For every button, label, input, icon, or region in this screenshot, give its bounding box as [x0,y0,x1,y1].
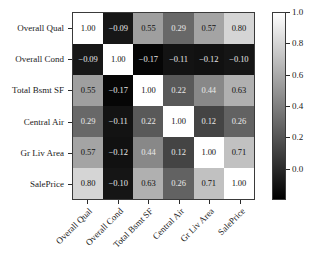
heatmap-cell: 0.80 [73,168,103,199]
correlation-heatmap-figure: Overall QualOverall CondTotal Bsmt SFCen… [0,0,313,268]
colorbar-tick-mark [286,137,290,138]
heatmap-cell: −0.17 [133,44,163,75]
y-axis-tick-mark [68,153,72,154]
heatmap-cell: 0.29 [73,106,103,137]
y-axis-tick-mark [68,28,72,29]
heatmap-cell-value: −0.17 [109,86,128,95]
heatmap-cell: 0.57 [194,13,224,44]
heatmap-cell: 1.00 [194,137,224,168]
y-axis-tick-label: Overall Cond [0,43,68,74]
y-axis-tick-label: Gr Liv Area [0,137,68,168]
heatmap-cell-value: −0.10 [109,179,128,188]
heatmap-cell: −0.09 [73,44,103,75]
y-axis-tick-label: Total Bsmt SF [0,75,68,106]
heatmap-cell-value: 1.00 [232,179,246,188]
heatmap-cell-value: 0.12 [171,148,185,157]
heatmap-cell-value: 0.57 [81,148,95,157]
heatmap-cell-value: 1.00 [202,148,216,157]
colorbar-tick-label: 0.6 [292,70,303,80]
heatmap-cell: 0.22 [163,75,193,106]
heatmap-cell-value: −0.12 [109,148,128,157]
heatmap-cell-value: −0.17 [139,55,158,64]
colorbar-tick-mark [286,106,290,107]
heatmap-cell: 0.12 [194,106,224,137]
heatmap-cell: −0.12 [194,44,224,75]
colorbar-gradient [272,12,286,200]
x-axis-tick-mark [240,200,241,204]
x-axis-tick-mark [209,200,210,204]
x-axis-tick-mark [179,200,180,204]
heatmap-cell-value: 0.29 [171,24,185,33]
x-axis-tick-mark [87,200,88,204]
heatmap-cell: 1.00 [224,168,254,199]
heatmap-cell: 1.00 [133,75,163,106]
heatmap-cell-value: 1.00 [141,86,155,95]
x-axis-tick-mark [148,200,149,204]
x-axis-tick-mark [118,200,119,204]
heatmap-cell-value: 0.55 [81,86,95,95]
heatmap-cell-value: 0.55 [141,24,155,33]
heatmap-cell: 1.00 [73,13,103,44]
heatmap-cell-value: 0.29 [81,117,95,126]
heatmap-cell-value: 1.00 [111,55,125,64]
heatmap-cell-value: −0.09 [109,24,128,33]
heatmap-cell: 0.57 [73,137,103,168]
heatmap-cell-value: −0.10 [229,55,248,64]
heatmap-cell: −0.11 [103,106,133,137]
y-axis-tick-label: Central Air [0,106,68,137]
heatmap-cell: 0.63 [224,75,254,106]
heatmap-cell-value: 0.71 [202,179,216,188]
heatmap-cell: 0.55 [73,75,103,106]
y-axis-tick-mark [68,122,72,123]
heatmap-cell: −0.17 [103,75,133,106]
x-axis-tick-label: Overall Qual [2,206,94,268]
y-axis-tick-label: SalePrice [0,169,68,200]
colorbar-tick-label: 0.8 [292,38,303,48]
heatmap-cell: 0.63 [133,168,163,199]
heatmap-cell-value: −0.11 [109,117,128,126]
colorbar-tick-label: 1.0 [292,7,303,17]
colorbar-tick-mark [286,75,290,76]
colorbar-tick-label: 0.0 [292,164,303,174]
y-axis-tick-label-group: Overall QualOverall CondTotal Bsmt SFCen… [0,12,68,200]
heatmap-cell: 0.26 [163,168,193,199]
heatmap-cell: 0.29 [163,13,193,44]
colorbar-tick-mark [286,12,290,13]
heatmap-cell-value: 0.80 [232,24,246,33]
heatmap-cell: 1.00 [163,106,193,137]
heatmap-grid: 1.00−0.090.550.290.570.80−0.091.00−0.17−… [72,12,255,200]
heatmap-cell: −0.12 [103,137,133,168]
heatmap-cell: 0.44 [133,137,163,168]
heatmap-cell: 0.26 [224,106,254,137]
heatmap-cell: 0.80 [224,13,254,44]
heatmap-cell-value: 1.00 [81,24,95,33]
heatmap-cell-value: 0.22 [171,86,185,95]
colorbar-tick-label: 0.4 [292,101,303,111]
y-axis-tick-mark [68,59,72,60]
colorbar-tick-label: 0.2 [292,132,303,142]
colorbar-tick-mark [286,169,290,170]
heatmap-cell: 0.12 [163,137,193,168]
heatmap-cell-value: 0.80 [81,179,95,188]
heatmap-cell-value: 1.00 [171,117,185,126]
heatmap-cell-value: −0.12 [199,55,218,64]
heatmap-cell-value: 0.26 [232,117,246,126]
heatmap-cell: 0.22 [133,106,163,137]
heatmap-cell: 0.71 [194,168,224,199]
heatmap-cell-value: 0.71 [232,148,246,157]
y-axis-tick-label: Overall Qual [0,12,68,43]
heatmap-cell-value: 0.44 [202,86,216,95]
colorbar-tick-mark [286,43,290,44]
heatmap-cell-value: −0.09 [78,55,97,64]
heatmap-cell: 1.00 [103,44,133,75]
heatmap-cell-value: 0.57 [202,24,216,33]
heatmap-cell-value: 0.12 [202,117,216,126]
y-axis-tick-mark [68,90,72,91]
heatmap-cell-value: 0.63 [232,86,246,95]
heatmap-cell-value: 0.44 [141,148,155,157]
heatmap-cell: 0.44 [194,75,224,106]
heatmap-cell-value: 0.63 [141,179,155,188]
y-axis-tick-mark [68,184,72,185]
heatmap-cell: −0.11 [163,44,193,75]
heatmap-cell-value: 0.26 [171,179,185,188]
